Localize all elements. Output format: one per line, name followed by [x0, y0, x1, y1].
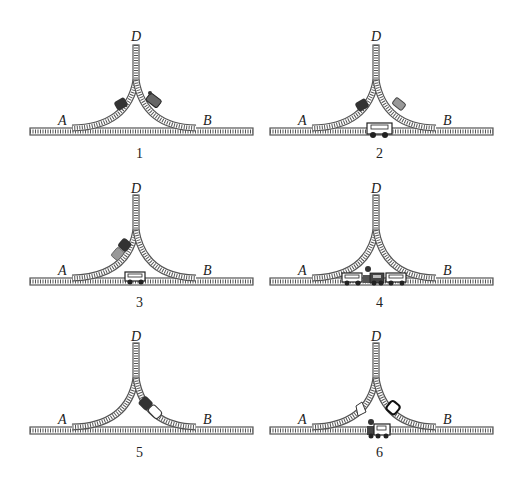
label-d: D: [371, 330, 381, 344]
label-a: A: [58, 413, 67, 427]
label-a: A: [58, 264, 67, 278]
track-diagram: [0, 0, 262, 165]
panel-4: D A B 4: [262, 158, 524, 318]
label-b: B: [443, 413, 452, 427]
label-d: D: [131, 330, 141, 344]
label-a: A: [298, 264, 307, 278]
panel-6: D A B 6: [262, 316, 524, 476]
label-b: B: [203, 264, 212, 278]
panel-number: 3: [136, 296, 143, 310]
track-diagram: [262, 316, 525, 481]
label-d: D: [371, 30, 381, 44]
label-a: A: [298, 114, 307, 128]
track-diagram: [262, 0, 525, 165]
label-b: B: [443, 264, 452, 278]
panel-number: 4: [376, 296, 383, 310]
track-diagram: [262, 158, 525, 323]
label-b: B: [443, 114, 452, 128]
open-wagon: [367, 123, 392, 138]
panel-3: D A B 3: [0, 158, 262, 318]
label-b: B: [203, 413, 212, 427]
locomotive: [392, 97, 406, 111]
panel-number: 5: [136, 446, 143, 460]
panel-2: D A B 2: [262, 0, 524, 160]
label-d: D: [131, 30, 141, 44]
panel-number: 6: [376, 446, 383, 460]
label-d: D: [371, 182, 381, 196]
label-d: D: [131, 182, 141, 196]
label-a: A: [298, 413, 307, 427]
label-b: B: [203, 114, 212, 128]
panel-1: D A B 1: [0, 0, 262, 160]
locomotive: [367, 419, 390, 439]
label-a: A: [58, 114, 67, 128]
panel-5: D A B 5: [0, 316, 262, 476]
